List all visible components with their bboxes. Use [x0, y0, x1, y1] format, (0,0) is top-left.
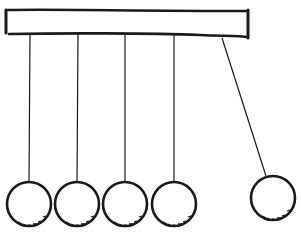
ball-1	[7, 182, 51, 226]
string-5-swinging	[222, 38, 266, 176]
strings	[29, 34, 266, 182]
ball-2	[55, 182, 99, 226]
ball-3	[103, 182, 147, 226]
string-2	[77, 34, 78, 182]
balls	[7, 176, 295, 226]
ball-4	[152, 182, 196, 226]
newtons-cradle-illustration	[0, 0, 301, 240]
top-bar	[6, 10, 248, 38]
string-1	[29, 34, 30, 182]
ball-5-swinging	[251, 176, 295, 220]
